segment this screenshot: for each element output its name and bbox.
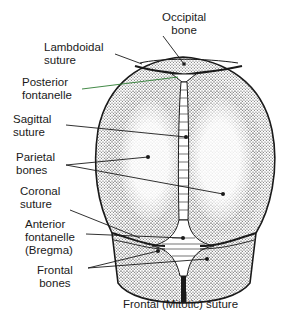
label-parietal-bones: Parietal bones [16,151,55,177]
label-posterior-fontanelle: Posterior fontanelle [22,76,72,102]
label-coronal-suture: Coronal suture [20,185,60,211]
label-sagittal-suture: Sagittal suture [13,113,51,139]
label-occipital-bone: Occipital bone [162,11,206,37]
label-frontal-bones: Frontal bones [37,264,73,290]
label-frontal-suture: Frontal (Mitotic) suture [123,298,238,311]
label-lambdoidal-suture: Lambdoidal suture [44,41,103,67]
label-anterior-fontanelle: Anterior fontanelle (Bregma) [25,218,75,257]
sagittal-suture-shape [178,82,188,220]
